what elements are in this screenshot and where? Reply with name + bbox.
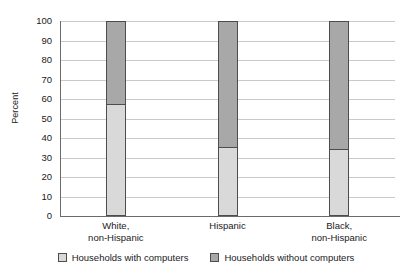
bar-segment-with-computers	[218, 148, 238, 216]
y-axis-title: Percent	[4, 0, 26, 216]
legend-swatch-icon	[210, 253, 219, 262]
y-axis-tick-labels: 1009080706050403020100	[24, 21, 56, 216]
bar-segment-with-computers	[106, 105, 126, 216]
x-axis-line	[60, 216, 400, 217]
legend-label: Households with computers	[72, 252, 189, 263]
chart-legend: Households with computersHouseholds with…	[0, 252, 412, 263]
x-axis-tick-label-line: Hispanic	[209, 220, 245, 232]
x-axis-tick-label-line: non-Hispanic	[88, 232, 143, 244]
bar-segment-without-computers	[218, 21, 238, 148]
y-axis-tick-label: 10	[41, 192, 52, 202]
bar-stack	[106, 21, 126, 216]
y-axis-title-text: Percent	[10, 92, 20, 124]
x-axis-tick-labels: White,non-HispanicHispanicBlack,non-Hisp…	[60, 220, 395, 252]
bar-segment-with-computers	[329, 150, 349, 216]
y-axis-tick-label: 0	[47, 211, 52, 221]
legend-label: Households without computers	[224, 252, 354, 263]
bar-stack	[329, 21, 349, 216]
y-axis-line	[60, 21, 61, 217]
y-axis-tick-label: 80	[41, 55, 52, 65]
x-axis-tick-label-line: Black,	[311, 220, 366, 232]
y-axis-tick-label: 70	[41, 75, 52, 85]
x-axis-tick-label: White,non-Hispanic	[88, 220, 143, 244]
y-axis-tick-label: 50	[41, 114, 52, 124]
y-axis-tick-label: 30	[41, 153, 52, 163]
legend-item[interactable]: Households with computers	[58, 252, 189, 263]
x-axis-tick-label-line: non-Hispanic	[311, 232, 366, 244]
bar-stack	[218, 21, 238, 216]
chart-figure: Percent 1009080706050403020100 White,non…	[0, 0, 412, 278]
y-axis-tick-label: 90	[41, 36, 52, 46]
y-axis-tick-label: 20	[41, 172, 52, 182]
x-axis-tick-label: Black,non-Hispanic	[311, 220, 366, 244]
y-axis-tick-label: 100	[36, 16, 52, 26]
legend-swatch-icon	[58, 253, 67, 262]
x-axis-tick-label-line: White,	[88, 220, 143, 232]
plot-area	[60, 21, 395, 216]
bar-segment-without-computers	[329, 21, 349, 150]
x-axis-tick-label: Hispanic	[209, 220, 245, 232]
y-axis-tick-label: 60	[41, 94, 52, 104]
legend-item[interactable]: Households without computers	[210, 252, 354, 263]
y-axis-tick-label: 40	[41, 133, 52, 143]
bar-segment-without-computers	[106, 21, 126, 105]
